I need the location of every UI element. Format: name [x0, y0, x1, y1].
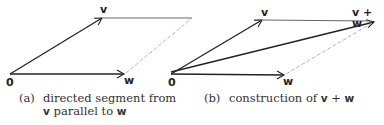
caption-b-w: w	[345, 92, 355, 104]
caption-a-tag: (a)	[19, 92, 35, 105]
label-v-plus-w: v + w	[352, 7, 384, 29]
caption-b-plus: +	[328, 91, 345, 105]
label-v-b: v	[261, 7, 268, 18]
label-v-a: v	[100, 4, 107, 15]
vector-sum-arrow	[171, 22, 374, 72]
caption-a-w: w	[117, 105, 127, 117]
label-w-b: w	[283, 76, 293, 87]
caption-a-line2: v parallel to w	[43, 105, 176, 118]
caption-b: construction of v + w	[229, 92, 354, 105]
vector-v-arrow	[171, 20, 262, 74]
panel-a-figure	[10, 18, 192, 74]
vector-v-arrow	[10, 18, 102, 74]
caption-b-text: construction of	[229, 91, 321, 105]
dashed-side	[126, 18, 192, 73]
panel-b-figure	[171, 20, 374, 75]
caption-b-tag: (b)	[204, 92, 220, 105]
label-origin-a: 0	[6, 77, 14, 88]
caption-a-v: v	[43, 105, 50, 117]
label-origin-b: 0	[168, 77, 176, 88]
caption-b-v: v	[321, 92, 328, 104]
caption-a: directed segment from v parallel to w	[43, 92, 176, 118]
dashed-side	[286, 23, 372, 74]
vector-w-arrow	[171, 74, 284, 75]
label-w-a: w	[124, 75, 134, 86]
caption-a-text: parallel to	[50, 104, 117, 118]
